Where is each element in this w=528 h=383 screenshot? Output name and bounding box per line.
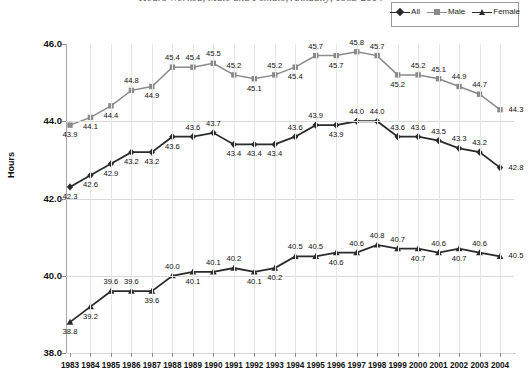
x-axis-tick-label: 2004 [485,361,515,370]
y-axis-tick-label: 46.0 [44,38,63,49]
data-label: 40.7 [386,235,410,244]
x-axis-tick [316,353,317,357]
data-label: 43.6 [160,142,184,151]
data-label: 42.9 [99,169,123,178]
data-label: 40.6 [468,239,492,248]
data-label: 45.7 [324,61,348,70]
gridline-vertical [500,44,501,353]
x-axis-tick [131,353,132,357]
data-label: 40.0 [160,262,184,271]
legend-line-swatch [390,12,410,13]
data-point-marker-diamond [67,183,73,190]
data-label: 39.2 [78,312,102,321]
gridline-vertical [398,44,399,353]
data-label: 44.3 [504,105,528,114]
data-label: 44.7 [468,80,492,89]
legend-item-male[interactable]: Male [427,7,465,17]
x-axis-tick [152,353,153,357]
y-axis-tick-label: 44.0 [44,115,63,126]
legend-label: All [411,7,420,17]
data-label: 45.7 [365,42,389,51]
data-label: 44.8 [119,76,143,85]
data-point-marker-square [67,122,72,127]
x-axis-tick [459,353,460,357]
gridline-vertical [295,44,296,353]
x-axis-tick [295,353,296,357]
y-axis-tick [62,353,66,354]
gridline-vertical [439,44,440,353]
gridline-vertical [480,44,481,353]
data-label: 43.7 [201,119,225,128]
legend-label: Female [493,7,520,17]
legend-item-female[interactable]: Female [472,7,520,17]
x-axis-tick [336,353,337,357]
y-axis-title: Hours [6,152,16,178]
data-label: 40.6 [427,239,451,248]
x-axis-tick [90,353,91,357]
y-axis-tick-label: 38.0 [44,347,63,358]
gridline-vertical [459,44,460,353]
gridline-vertical [418,44,419,353]
data-label: 44.1 [78,122,102,131]
data-label: 42.8 [504,163,528,172]
gridline-horizontal [66,353,514,354]
x-axis-tick [111,353,112,357]
data-label: 39.6 [119,277,143,286]
x-axis-tick [418,353,419,357]
gridline-vertical [152,44,153,353]
gridline-vertical [357,44,358,353]
gridline-vertical [111,44,112,353]
gridline-vertical [90,44,91,353]
y-axis-tick-label: 40.0 [44,270,63,281]
x-axis-tick [357,353,358,357]
data-label: 40.2 [263,273,287,282]
data-label: 45.7 [304,42,328,51]
data-label: 45.2 [222,61,246,70]
data-label: 40.7 [447,254,471,263]
legend-label: Male [448,7,465,17]
data-label: 40.5 [304,242,328,251]
data-label: 45.2 [263,61,287,70]
data-label: 42.6 [78,180,102,189]
gridline-horizontal [66,199,514,200]
data-label: 45.5 [201,49,225,58]
data-label: 43.9 [304,111,328,120]
x-axis-tick [70,353,71,357]
x-axis-tick [480,353,481,357]
data-label: 43.2 [140,157,164,166]
legend-line-swatch [472,12,492,13]
data-label: 40.2 [222,254,246,263]
y-axis-tick [62,276,66,277]
data-label: 44.4 [99,111,123,120]
gridline-vertical [234,44,235,353]
x-axis-tick [377,353,378,357]
data-label: 40.1 [181,277,205,286]
data-label: 45.1 [242,84,266,93]
data-label: 40.5 [504,251,528,260]
plot-area [66,44,514,353]
x-axis-tick [193,353,194,357]
data-label: 42.3 [58,192,82,201]
gridline-vertical [316,44,317,353]
legend-item-all[interactable]: All [390,7,420,17]
gridline-vertical [131,44,132,353]
legend-line-swatch [427,12,447,13]
x-axis-tick [439,353,440,357]
data-label: 44.0 [365,107,389,116]
data-label: 40.7 [406,254,430,263]
gridline-vertical [336,44,337,353]
data-label: 40.6 [324,258,348,267]
gridline-vertical [377,44,378,353]
data-label: 43.9 [58,130,82,139]
x-axis-tick [254,353,255,357]
gridline-vertical [275,44,276,353]
x-axis-tick [398,353,399,357]
x-axis-tick [213,353,214,357]
x-axis-tick [234,353,235,357]
data-label: 43.6 [283,123,307,132]
gridline-vertical [193,44,194,353]
data-label: 43.4 [263,149,287,158]
gridline-vertical [213,44,214,353]
data-label: 38.8 [58,327,82,336]
